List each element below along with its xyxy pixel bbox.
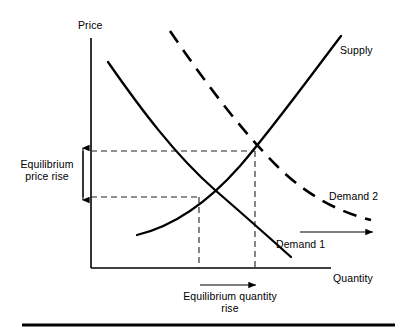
x-axis-label: Quantity [333,272,373,284]
supply-curve [137,36,341,235]
equilibrium-quantity-rise-label: Equilibrium quantity rise [178,290,282,314]
supply-curve-label: Supply [340,44,373,56]
demand2-curve-label: Demand 2 [329,190,378,202]
equilibrium-price-rise-label: Equilibrium price rise [8,158,86,182]
supply-demand-figure: Price Quantity Supply Demand 1 Demand 2 … [0,0,399,334]
y-axis-label: Price [78,19,102,31]
demand1-curve-label: Demand 1 [276,238,325,250]
